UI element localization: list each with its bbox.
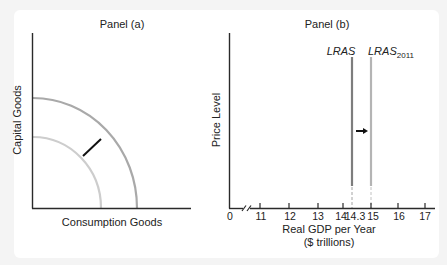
tick-label: 13 <box>312 210 324 222</box>
arrowhead-right-icon <box>363 128 368 134</box>
panel-a: Panel (a) Capital Goods Consumption Good… <box>11 18 191 228</box>
tick-label: 14.3 <box>345 210 366 222</box>
panel-b-x-label: Real GDP per Year <box>282 223 376 235</box>
tick-label: 0 <box>227 210 233 222</box>
panel-a-x-label: Consumption Goods <box>62 216 163 228</box>
x-axis-tick-labels: 0 11 12 13 14 14.3 15 16 17 <box>227 210 431 222</box>
x-axis-ticks <box>260 203 425 208</box>
panel-a-y-label: Capital Goods <box>11 85 23 155</box>
figure-canvas: Panel (a) Capital Goods Consumption Good… <box>0 0 447 265</box>
panel-a-title: Panel (a) <box>100 18 145 30</box>
tick-label: 17 <box>419 210 431 222</box>
lras-label: LRAS <box>327 45 356 57</box>
tick-label: 16 <box>393 210 405 222</box>
panel-b: Panel (b) Price Level LRAS LRAS2011 <box>210 18 435 248</box>
ppf-shift-arrow-icon <box>83 139 101 156</box>
panel-b-title: Panel (b) <box>305 18 350 30</box>
panel-b-y-label: Price Level <box>210 93 222 147</box>
tick-label: 15 <box>367 210 379 222</box>
tick-label: 12 <box>284 210 296 222</box>
panel-b-x-label-units: ($ trillions) <box>304 236 355 248</box>
lras2011-label: LRAS2011 <box>368 45 415 60</box>
tick-label: 11 <box>256 210 267 222</box>
